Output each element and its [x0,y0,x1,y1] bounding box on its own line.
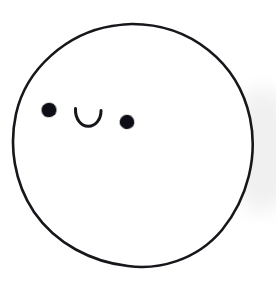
face-doodle-illustration [0,0,276,281]
head-outline-circle [13,24,253,267]
drawing-canvas [0,0,276,281]
